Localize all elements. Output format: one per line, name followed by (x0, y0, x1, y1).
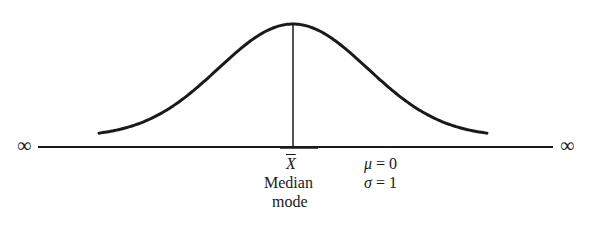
mean-label: X (286, 155, 296, 173)
mode-label: mode (272, 193, 308, 211)
left-infinity-label: ∞ (17, 136, 31, 154)
sigma-symbol: σ (364, 174, 372, 191)
sigma-parameter: σ = 1 (364, 174, 397, 192)
right-infinity-label: ∞ (560, 136, 574, 154)
median-label: Median (264, 174, 313, 192)
sigma-value: = 1 (376, 174, 397, 191)
mu-symbol: μ (364, 155, 372, 172)
mu-value: = 0 (376, 155, 397, 172)
mu-parameter: μ = 0 (364, 155, 397, 173)
